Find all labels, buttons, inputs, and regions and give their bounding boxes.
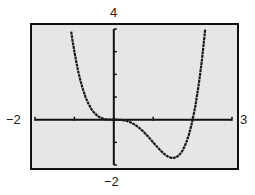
x-min-label: −2	[6, 113, 21, 126]
plot-frame	[31, 24, 238, 169]
x-max-label: 3	[240, 113, 247, 126]
y-max-label: 4	[110, 6, 117, 19]
y-min-label: −2	[104, 175, 119, 188]
graph-plot	[0, 0, 255, 195]
